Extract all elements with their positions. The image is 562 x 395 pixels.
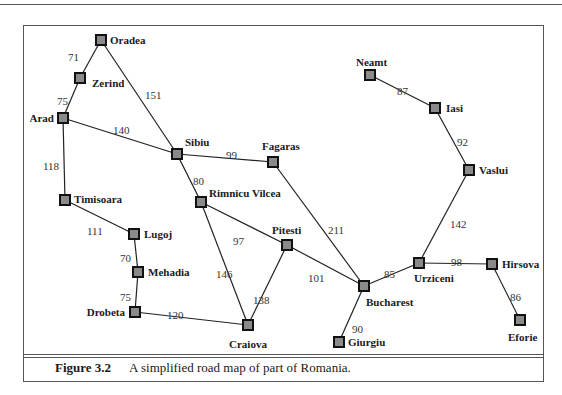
road-cost-label: 120: [167, 309, 184, 321]
road-cost-label: 75: [57, 95, 69, 107]
road-cost-label: 140: [113, 124, 130, 136]
city-node-pitesti: [282, 240, 292, 250]
city-label-zerind: Zerind: [92, 77, 124, 89]
city-label-oradea: Oradea: [110, 34, 146, 46]
city-node-arad: [58, 113, 68, 123]
figure-caption: Figure 3.2A simplified road map of part …: [55, 360, 351, 376]
city-label-fagaras: Fagaras: [262, 140, 301, 152]
city-label-pitesti: Pitesti: [272, 224, 301, 236]
city-label-drobeta: Drobeta: [87, 306, 126, 318]
road-cost-label: 146: [216, 268, 233, 280]
road-pitesti-craiova: [248, 245, 287, 325]
road-cost-label: 99: [226, 149, 238, 161]
city-label-lugoj: Lugoj: [144, 228, 172, 240]
road-cost-label: 98: [451, 256, 463, 268]
road-cost-label: 118: [43, 160, 60, 172]
road-cost-label: 97: [233, 235, 245, 247]
road-cost-label: 70: [120, 252, 132, 264]
road-oradea-sibiu: [101, 40, 177, 154]
city-label-timisoara: Timisoara: [74, 193, 123, 205]
road-arad-timisoara: [63, 118, 65, 200]
romania-road-map: 7175151140118111707512099809714613810121…: [0, 0, 562, 395]
road-cost-label: 211: [328, 224, 344, 236]
city-labels: OradeaZerindAradTimisoaraLugojMehadiaDro…: [30, 34, 540, 350]
figure-caption-text: A simplified road map of part of Romania…: [129, 360, 351, 375]
city-node-lugoj: [129, 229, 139, 239]
city-node-oradea: [96, 35, 106, 45]
city-label-rimnicu-vilcea: Rimnicu Vilcea: [209, 187, 281, 199]
road-cost-label: 138: [253, 294, 270, 306]
road-pitesti-bucharest: [287, 245, 364, 286]
road-cost-label: 71: [68, 51, 79, 63]
road-edges: [63, 40, 520, 342]
city-label-giurgiu: Giurgiu: [348, 336, 385, 348]
city-node-sibiu: [172, 149, 182, 159]
city-node-zerind: [75, 73, 85, 83]
road-cost-label: 80: [193, 175, 205, 187]
city-label-bucharest: Bucharest: [366, 296, 414, 308]
road-cost-label: 92: [457, 136, 468, 148]
road-cost-label: 86: [510, 291, 522, 303]
city-node-drobeta: [130, 307, 140, 317]
city-node-urziceni: [414, 258, 424, 268]
road-rimnicu-vilcea-craiova: [201, 202, 248, 325]
city-node-neamt: [365, 70, 375, 80]
city-node-fagaras: [268, 157, 278, 167]
city-node-iasi: [430, 103, 440, 113]
road-urziceni-vaslui: [419, 170, 469, 263]
city-node-timisoara: [60, 195, 70, 205]
city-label-urziceni: Urziceni: [414, 272, 454, 284]
city-label-arad: Arad: [30, 112, 54, 124]
city-label-iasi: Iasi: [446, 102, 463, 114]
road-sibiu-fagaras: [177, 154, 273, 162]
road-cost-label: 101: [308, 272, 325, 284]
city-node-vaslui: [464, 165, 474, 175]
road-cost-label: 111: [87, 225, 103, 237]
road-cost-label: 142: [450, 218, 467, 230]
road-cost-label: 85: [384, 268, 396, 280]
road-cost-label: 75: [120, 291, 132, 303]
city-node-mehadia: [133, 267, 143, 277]
city-label-sibiu: Sibiu: [185, 136, 209, 148]
city-label-craiova: Craiova: [229, 338, 267, 350]
city-label-neamt: Neamt: [356, 56, 387, 68]
city-label-hirsova: Hirsova: [502, 258, 540, 270]
city-node-eforie: [515, 315, 525, 325]
caption-divider: [23, 354, 544, 358]
city-node-giurgiu: [334, 337, 344, 347]
road-cost-label: 90: [352, 323, 364, 335]
city-node-craiova: [243, 320, 253, 330]
road-drobeta-craiova: [135, 312, 248, 325]
figure-number: Figure 3.2: [55, 360, 111, 375]
city-label-vaslui: Vaslui: [479, 164, 508, 176]
city-label-eforie: Eforie: [508, 331, 537, 343]
road-cost-label: 87: [397, 85, 409, 97]
city-label-mehadia: Mehadia: [148, 266, 190, 278]
city-node-bucharest: [359, 281, 369, 291]
city-node-hirsova: [487, 259, 497, 269]
city-node-rimnicu-vilcea: [196, 197, 206, 207]
road-cost-label: 151: [145, 89, 162, 101]
